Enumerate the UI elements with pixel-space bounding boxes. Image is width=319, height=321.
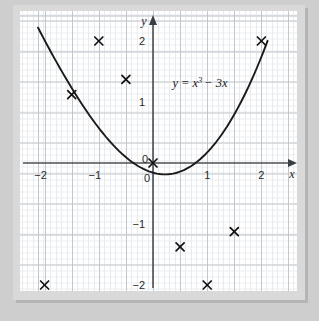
x-tick-label--2: −2 (34, 169, 47, 181)
x-origin-label: 0 (144, 172, 150, 184)
data-point-marker (203, 281, 211, 289)
equation-lhs: y (170, 76, 178, 90)
data-point-marker (68, 91, 76, 99)
data-point-marker (230, 228, 238, 236)
data-point-marker (257, 37, 265, 45)
y-tick-label-1: 1 (139, 96, 145, 108)
y-tick-label-2: 2 (139, 35, 145, 47)
data-point-marker (95, 37, 103, 45)
equation-equals: = (181, 76, 189, 90)
x-tick-label-2: 2 (258, 169, 264, 181)
x-tick-label-1: 1 (204, 169, 210, 181)
y-origin-label: 0 (142, 153, 148, 165)
equation-annotation: y=x3− 3x (170, 75, 228, 90)
x-axis-label: x (288, 167, 295, 181)
x-axis (23, 159, 297, 167)
y-axis (149, 15, 157, 288)
y-tick-label--1: −1 (132, 218, 145, 230)
equation-exponent: 3 (197, 75, 202, 85)
x-axis-arrow-icon (288, 159, 297, 167)
x-tick-label--1: −1 (89, 169, 102, 181)
plot-area: −2 −1 0 1 2 2 1 0 −1 −2 x y y=x3− 3x (20, 11, 297, 291)
equation-rest: − 3x (204, 76, 228, 90)
data-point-marker (176, 243, 184, 251)
graph-figure: −2 −1 0 1 2 2 1 0 −1 −2 x y y=x3− 3x (0, 0, 319, 321)
plot-svg: −2 −1 0 1 2 2 1 0 −1 −2 x y y=x3− 3x (20, 11, 297, 291)
data-point-marker (41, 281, 49, 289)
y-tick-label--2: −2 (132, 279, 145, 291)
data-point-marker (122, 75, 130, 83)
y-axis-arrow-icon (149, 15, 157, 25)
svg-text:y=x3− 3x: y=x3− 3x (170, 75, 228, 90)
y-axis-label: y (140, 14, 147, 28)
